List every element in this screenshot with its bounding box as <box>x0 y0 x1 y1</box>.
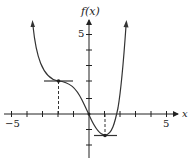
tangent-point-left <box>57 79 61 83</box>
x-tick-label-max: 5 <box>163 119 169 129</box>
origin-point <box>88 113 91 116</box>
curve-arrow-left <box>31 20 36 27</box>
y-tick-label-max: 5 <box>78 29 84 39</box>
x-axis-label: x <box>182 109 188 119</box>
tangent-point-right <box>103 134 107 138</box>
x-tick-label-min: −5 <box>5 119 20 129</box>
y-axis-label: f(x) <box>81 6 100 17</box>
curve-arrow-right <box>124 20 129 28</box>
function-graph <box>0 0 195 165</box>
